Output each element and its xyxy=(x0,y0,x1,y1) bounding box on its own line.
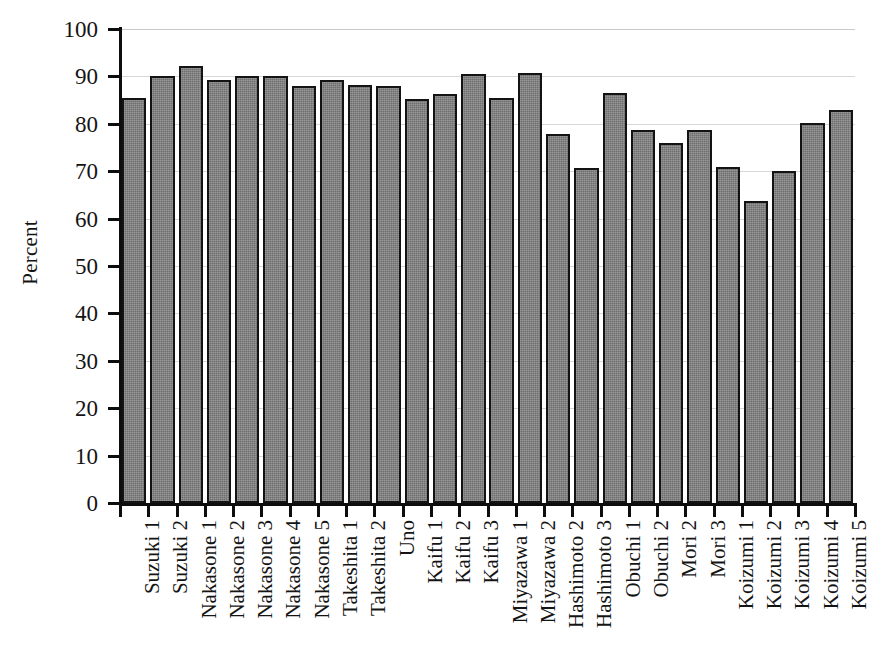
x-axis-tick xyxy=(345,503,348,517)
x-axis-tick xyxy=(147,503,150,517)
x-axis-tick xyxy=(204,503,207,517)
bar xyxy=(546,134,570,503)
y-axis-tick-label: 10 xyxy=(75,444,98,470)
bar xyxy=(518,73,542,503)
x-axis-tick xyxy=(260,503,263,517)
y-axis-title: Percent xyxy=(0,0,60,505)
x-axis-tick xyxy=(854,503,857,517)
bar xyxy=(348,85,372,503)
x-axis-tick xyxy=(289,503,292,517)
x-axis-tick xyxy=(571,503,574,517)
y-axis-tick xyxy=(108,28,120,31)
bar xyxy=(405,99,429,503)
y-axis-tick-label: 60 xyxy=(75,207,98,233)
x-axis-tick xyxy=(373,503,376,517)
x-axis-tick xyxy=(826,503,829,517)
bar xyxy=(659,143,683,503)
bar xyxy=(800,123,824,503)
bar xyxy=(687,130,711,504)
bar xyxy=(150,76,174,503)
y-axis-tick-label: 30 xyxy=(75,349,98,375)
y-axis-tick xyxy=(108,75,120,78)
x-axis-tick xyxy=(769,503,772,517)
x-axis-tick xyxy=(515,503,518,517)
bar xyxy=(207,80,231,503)
bar xyxy=(263,76,287,503)
y-axis-tick xyxy=(108,218,120,221)
x-axis-tick xyxy=(797,503,800,517)
y-axis-tick-label: 90 xyxy=(75,64,98,90)
bar xyxy=(433,94,457,503)
y-axis-tick-label: 40 xyxy=(75,301,98,327)
x-axis-tick xyxy=(119,503,122,517)
y-axis-tick-label: 50 xyxy=(75,254,98,280)
x-axis-tick xyxy=(317,503,320,517)
x-axis-tick xyxy=(487,503,490,517)
bar xyxy=(631,130,655,504)
y-axis-tick-label: 20 xyxy=(75,396,98,422)
x-axis-tick xyxy=(458,503,461,517)
bar xyxy=(235,76,259,503)
x-axis-tick xyxy=(232,503,235,517)
bar xyxy=(716,167,740,503)
y-axis-tick-label: 70 xyxy=(75,159,98,185)
x-axis-tick xyxy=(656,503,659,517)
bar xyxy=(461,74,485,503)
bar xyxy=(744,201,768,503)
bar xyxy=(376,86,400,503)
x-axis-tick xyxy=(713,503,716,517)
bar xyxy=(603,93,627,503)
y-axis-tick-label: 80 xyxy=(75,112,98,138)
y-axis-tick xyxy=(108,265,120,268)
bar xyxy=(772,171,796,503)
bar xyxy=(574,168,598,503)
y-axis-tick xyxy=(108,123,120,126)
y-axis-tick-label: 100 xyxy=(64,17,99,43)
y-axis-tick xyxy=(108,455,120,458)
x-axis-label: Koizumi 5 xyxy=(849,520,895,670)
y-axis-title-text: Percent xyxy=(18,220,43,284)
x-axis-tick xyxy=(402,503,405,517)
x-axis-tick xyxy=(430,503,433,517)
y-axis-tick-label: 0 xyxy=(87,491,99,517)
x-axis-tick xyxy=(741,503,744,517)
bar xyxy=(122,98,146,503)
x-axis-tick xyxy=(600,503,603,517)
bar xyxy=(489,98,513,503)
bar xyxy=(829,110,853,503)
x-axis-tick xyxy=(628,503,631,517)
x-axis-tick xyxy=(176,503,179,517)
y-axis-tick xyxy=(108,407,120,410)
bar-series xyxy=(120,29,855,503)
y-axis-tick xyxy=(108,170,120,173)
x-axis-tick xyxy=(543,503,546,517)
y-axis-tick xyxy=(108,312,120,315)
bar xyxy=(179,66,203,503)
x-axis-tick xyxy=(684,503,687,517)
bar xyxy=(320,80,344,503)
y-axis-tick xyxy=(108,360,120,363)
bar xyxy=(292,86,316,503)
bar-chart: Percent 0102030405060708090100 Suzuki 1S… xyxy=(0,0,895,671)
x-axis-labels: Suzuki 1Suzuki 2Nakasone 1Nakasone 2Naka… xyxy=(120,520,855,670)
